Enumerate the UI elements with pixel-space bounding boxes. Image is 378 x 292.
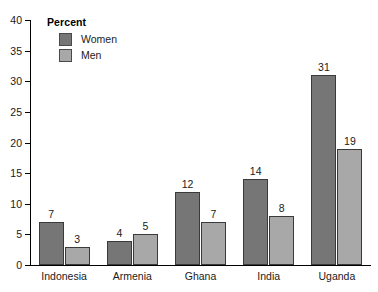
legend-label-men: Men: [81, 50, 101, 61]
y-tick-label-40: 40: [0, 15, 22, 25]
y-tick-5: [25, 234, 31, 235]
x-axis-label-indonesia: Indonesia: [30, 271, 98, 282]
y-tick-label-25: 25: [0, 107, 22, 117]
bar-india-women: [243, 179, 268, 265]
bar-value-label-ghana-men: 7: [197, 209, 230, 219]
bar-ghana-men: [201, 222, 226, 265]
bar-uganda-men: [337, 149, 362, 265]
legend-swatch-men-icon: [59, 49, 72, 62]
chart-legend: Percent Women Men: [47, 16, 117, 62]
y-tick-label-5: 5: [0, 229, 22, 239]
y-tick-label-15: 15: [0, 168, 22, 178]
bar-value-label-armenia-men: 5: [129, 221, 162, 231]
bar-value-label-uganda-men: 19: [333, 136, 366, 146]
legend-title: Percent: [47, 16, 117, 28]
legend-swatch-women-icon: [59, 33, 72, 46]
x-axis-label-armenia: Armenia: [98, 271, 166, 282]
x-axis-label-uganda: Uganda: [303, 271, 371, 282]
y-tick-label-20: 20: [0, 138, 22, 148]
y-tick-20: [25, 143, 31, 144]
bar-india-men: [269, 216, 294, 265]
x-axis-label-ghana: Ghana: [166, 271, 234, 282]
bar-chart: 0510152025303540 73451271483119 Indonesi…: [0, 0, 378, 292]
y-tick-label-30: 30: [0, 76, 22, 86]
bar-armenia-men: [133, 234, 158, 265]
y-tick-label-0: 0: [0, 260, 22, 270]
y-tick-label-10: 10: [0, 199, 22, 209]
y-tick-10: [25, 204, 31, 205]
bar-value-label-ghana-women: 12: [171, 179, 204, 189]
legend-label-women: Women: [81, 34, 117, 45]
y-tick-25: [25, 112, 31, 113]
bar-value-label-indonesia-women: 7: [35, 209, 68, 219]
x-axis-line: [30, 265, 371, 266]
y-tick-30: [25, 81, 31, 82]
bar-value-label-india-men: 8: [265, 203, 298, 213]
x-axis-label-india: India: [235, 271, 303, 282]
bar-value-label-india-women: 14: [239, 166, 272, 176]
y-tick-40: [25, 20, 31, 21]
bar-value-label-uganda-women: 31: [307, 62, 340, 72]
bar-armenia-women: [107, 241, 132, 266]
bar-indonesia-men: [65, 247, 90, 265]
y-tick-15: [25, 173, 31, 174]
y-tick-0: [25, 265, 31, 266]
legend-item-women: Women: [59, 33, 117, 46]
y-tick-35: [25, 51, 31, 52]
legend-item-men: Men: [59, 49, 117, 62]
bar-value-label-indonesia-men: 3: [61, 234, 94, 244]
bar-uganda-women: [311, 75, 336, 265]
bar-ghana-women: [175, 192, 200, 266]
y-tick-label-35: 35: [0, 46, 22, 56]
